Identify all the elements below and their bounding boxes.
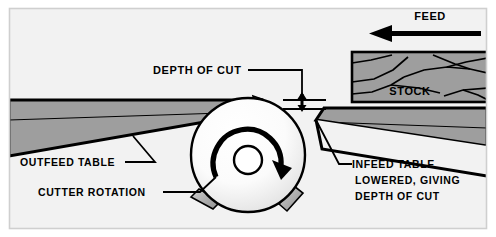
feed-label: FEED	[414, 10, 446, 22]
stock-label: STOCK	[389, 85, 430, 97]
infeed-table-label-line3: DEPTH OF CUT	[355, 190, 440, 202]
stock-group: STOCK	[352, 52, 488, 102]
diagram-canvas: STOCK FEED DEPTH OF CUT OUTFEED T	[0, 0, 496, 237]
cutter-rotation-label: CUTTER ROTATION	[38, 186, 146, 198]
arbor-hole	[234, 146, 262, 174]
cutter-head-group	[191, 96, 305, 212]
depth-of-cut-label: DEPTH OF CUT	[153, 64, 241, 76]
jointer-depth-of-cut-diagram: STOCK FEED DEPTH OF CUT OUTFEED T	[0, 0, 496, 237]
infeed-table-label-line1: INFEED TABLE	[352, 158, 435, 170]
outfeed-table-label: OUTFEED TABLE	[20, 156, 115, 168]
infeed-table-label-line2: LOWERED, GIVING	[355, 174, 460, 186]
